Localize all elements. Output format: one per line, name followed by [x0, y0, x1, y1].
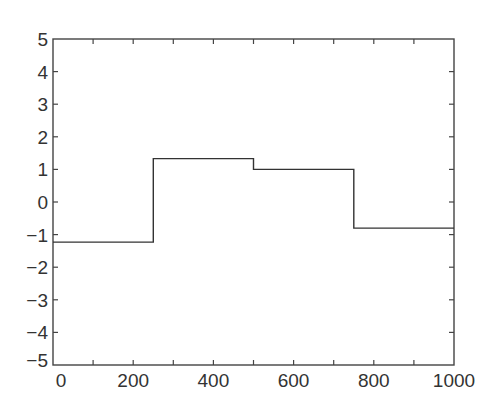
x-tick-label: 600	[278, 370, 310, 391]
x-tick-label: 800	[358, 370, 390, 391]
x-axis: 02004006008001000	[56, 39, 475, 391]
y-tick-label: −1	[26, 225, 48, 246]
y-tick-label: 4	[37, 62, 48, 83]
y-tick-label: 5	[37, 29, 48, 50]
y-tick-label: −2	[26, 257, 48, 278]
y-tick-label: −4	[26, 322, 48, 343]
y-tick-label: 1	[37, 159, 48, 180]
y-axis: −5−4−3−2−1012345	[26, 29, 454, 371]
series-layer	[53, 159, 454, 243]
x-tick-label: 400	[198, 370, 230, 391]
plot-area	[53, 39, 454, 365]
y-tick-label: 0	[37, 192, 48, 213]
y-tick-label: −3	[26, 290, 48, 311]
y-tick-label: 3	[37, 94, 48, 115]
y-tick-label: 2	[37, 127, 48, 148]
axes-frame	[53, 39, 454, 365]
data-line	[53, 159, 454, 243]
x-tick-label: 0	[56, 370, 67, 391]
y-tick-label: −5	[26, 350, 48, 371]
step-chart: −5−4−3−2−1012345 02004006008001000	[0, 0, 500, 409]
x-tick-label: 200	[117, 370, 149, 391]
x-tick-label: 1000	[433, 370, 475, 391]
